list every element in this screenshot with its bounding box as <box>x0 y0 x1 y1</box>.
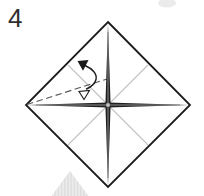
origami-diagram <box>0 0 204 196</box>
origami-step-panel: 4 <box>0 0 204 196</box>
crease-center-point <box>106 103 109 106</box>
watermark-pyramid <box>52 171 89 196</box>
watermark-blob <box>158 0 176 8</box>
